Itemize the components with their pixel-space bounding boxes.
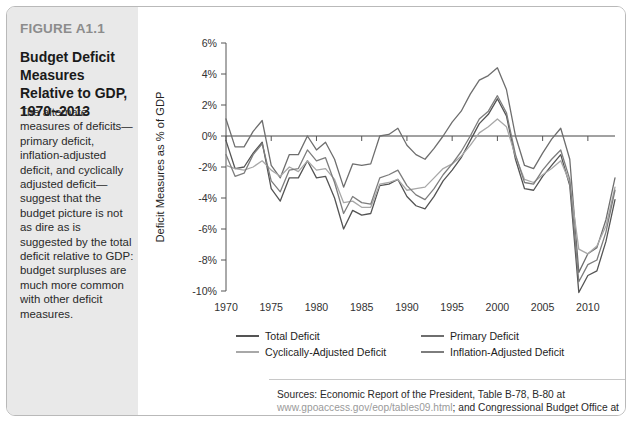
figure-caption: The alternate measures of deficits—prima… — [20, 105, 134, 321]
series-line — [226, 99, 615, 293]
x-tick-label: 1985 — [350, 301, 374, 313]
y-tick-label: -10% — [192, 285, 217, 297]
legend-label: Primary Deficit — [450, 330, 519, 342]
x-tick-label: 2010 — [576, 301, 600, 313]
line-chart: 6%4%2%0%-2%-4%-6%-8%-10% 197019751980198… — [138, 7, 626, 337]
y-tick-label: -6% — [198, 223, 217, 235]
y-axis-title: Deficit Measures as % of GDP — [154, 91, 166, 242]
x-tick-label: 1980 — [305, 301, 329, 313]
x-axis: 197019751980198519901995200020052010 — [214, 136, 600, 313]
sources-note: Sources: Economic Report of the Presiden… — [277, 388, 626, 416]
figure-sidebar: FIGURE A1.1 Budget Deficit Measures Rela… — [7, 7, 138, 415]
figure-container: FIGURE A1.1 Budget Deficit Measures Rela… — [6, 6, 626, 416]
y-tick-label: 2% — [202, 99, 218, 111]
chart-plot-area: 6%4%2%0%-2%-4%-6%-8%-10% 197019751980198… — [138, 7, 625, 415]
series-line — [226, 68, 615, 273]
legend-swatch — [236, 351, 259, 353]
x-tick-label: 1975 — [259, 301, 283, 313]
y-tick-label: -4% — [198, 192, 217, 204]
legend-item: Primary Deficit — [421, 330, 611, 342]
legend-swatch — [236, 335, 259, 337]
sources-middle: ; and Congressional Budget Office at — [453, 402, 619, 413]
x-tick-label: 1990 — [395, 301, 419, 313]
y-tick-label: 4% — [202, 68, 218, 80]
legend-swatch — [421, 351, 444, 353]
y-tick-label: -8% — [198, 254, 217, 266]
source-divider — [269, 379, 625, 380]
legend-item: Total Deficit — [236, 330, 421, 342]
series-line — [226, 96, 615, 282]
y-tick-label: -2% — [198, 161, 217, 173]
legend-label: Inflation-Adjusted Deficit — [450, 346, 564, 358]
chart-legend: Total DeficitPrimary DeficitCyclically-A… — [236, 330, 616, 358]
y-tick-label: 6% — [202, 37, 218, 49]
legend-item: Cyclically-Adjusted Deficit — [236, 346, 421, 358]
y-axis: 6%4%2%0%-2%-4%-6%-8%-10% — [192, 37, 615, 297]
legend-label: Total Deficit — [265, 330, 320, 342]
chart-series-group — [226, 68, 615, 293]
legend-item: Inflation-Adjusted Deficit — [421, 346, 611, 358]
sources-prefix: Sources: Economic Report of the Presiden… — [277, 389, 565, 400]
x-tick-label: 1995 — [440, 301, 464, 313]
x-tick-label: 1970 — [214, 301, 238, 313]
x-tick-label: 2000 — [486, 301, 510, 313]
y-tick-label: 0% — [202, 130, 218, 142]
x-tick-label: 2005 — [531, 301, 555, 313]
sources-url-gpoaccess[interactable]: www.gpoaccess.gov/eop/tables09.html — [277, 402, 453, 413]
series-line — [226, 119, 615, 254]
legend-label: Cyclically-Adjusted Deficit — [265, 346, 386, 358]
legend-swatch — [421, 335, 444, 337]
figure-label: FIGURE A1.1 — [20, 21, 105, 36]
